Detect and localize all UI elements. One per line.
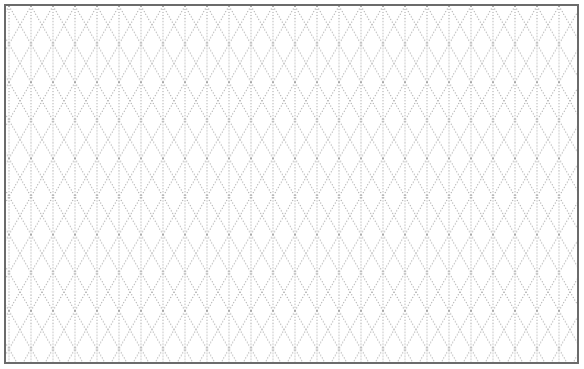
grid-paper-frame: Isometric dotted grid paper (4, 4, 579, 364)
isometric-grid (6, 6, 577, 362)
